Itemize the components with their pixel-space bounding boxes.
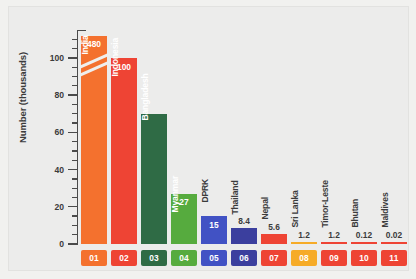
index-box-04[interactable]: 04 — [171, 250, 197, 266]
y-tick-minor — [72, 188, 79, 189]
bar-column: 100Indonesia — [111, 30, 137, 244]
plot-area: 480India100IndonesiaBangladesh27Myanmar1… — [79, 30, 409, 244]
bar-category-label: India — [81, 35, 90, 54]
y-tick-minor — [72, 160, 79, 161]
bar-category-label: Thailand — [231, 180, 240, 214]
y-tick-minor — [72, 234, 79, 235]
bar-sri-lanka[interactable] — [291, 242, 317, 245]
y-tick-minor — [72, 122, 79, 123]
bar-column: 1.2Timor-Leste — [321, 30, 347, 244]
bar-value-label: 15 — [201, 221, 227, 229]
y-tick-minor — [72, 197, 79, 198]
bar-nepal[interactable] — [261, 234, 287, 244]
y-tick-label: 20 — [24, 202, 64, 212]
index-box-10[interactable]: 10 — [351, 250, 377, 266]
index-box-02[interactable]: 02 — [111, 250, 137, 266]
y-tick-minor — [72, 178, 79, 179]
bar-category-label: Myanmar — [171, 176, 180, 213]
bar-value-label: 8.4 — [231, 217, 257, 225]
y-tick-minor — [72, 104, 79, 105]
bar-column: 0.02Maldives — [381, 30, 407, 244]
bar-category-label: Bhutan — [351, 199, 360, 228]
bar-category-label: Sri Lanka — [291, 190, 300, 227]
bar-value-label: 1.2 — [291, 231, 317, 239]
bar-category-label: Maldives — [381, 192, 390, 227]
bar-category-label: DPRK — [201, 178, 210, 202]
bar-column: 27Myanmar — [171, 30, 197, 244]
index-box-08[interactable]: 08 — [291, 250, 317, 266]
bar-bangladesh[interactable] — [141, 114, 167, 244]
y-tick-major — [68, 94, 78, 95]
y-tick-minor — [72, 215, 79, 216]
y-tick-minor — [72, 39, 79, 40]
bar-value-label: 0.12 — [351, 231, 377, 239]
y-tick-minor — [72, 67, 79, 68]
bar-category-label: Nepal — [261, 197, 270, 220]
y-tick-minor — [72, 48, 79, 49]
y-tick-label: 40 — [24, 165, 64, 175]
bar-value-label: 0.02 — [381, 231, 407, 239]
index-box-09[interactable]: 09 — [321, 250, 347, 266]
y-tick-minor — [72, 76, 79, 77]
index-box-01[interactable]: 01 — [81, 250, 107, 266]
bar-column: 1.2Sri Lanka — [291, 30, 317, 244]
bar-category-label: Timor-Leste — [321, 180, 330, 227]
index-label-row: 0102030405060708091011 — [79, 250, 409, 267]
y-tick-label: 80 — [24, 90, 64, 100]
bar-category-label: Bangladesh — [141, 74, 150, 121]
y-tick-minor — [72, 141, 79, 142]
y-tick-minor — [72, 150, 79, 151]
y-tick-label: 100 — [24, 53, 64, 63]
y-tick-major — [68, 132, 78, 133]
y-tick-minor — [72, 85, 79, 86]
y-tick-major — [68, 57, 78, 58]
bar-column: 8.4Thailand — [231, 30, 257, 244]
bar-column: 5.6Nepal — [261, 30, 287, 244]
bar-column: Bangladesh — [141, 30, 167, 244]
index-box-06[interactable]: 06 — [231, 250, 257, 266]
bar-value-label: 1.2 — [321, 231, 347, 239]
bar-column: 15DPRK — [201, 30, 227, 244]
bar-maldives[interactable] — [381, 242, 407, 245]
index-box-03[interactable]: 03 — [141, 250, 167, 266]
y-tick-label: 60 — [24, 127, 64, 137]
bar-thailand[interactable] — [231, 228, 257, 244]
y-tick-minor — [72, 225, 79, 226]
bar-category-label: Indonesia — [111, 38, 120, 77]
index-box-07[interactable]: 07 — [261, 250, 287, 266]
y-tick-major — [68, 169, 78, 170]
y-tick-major — [68, 206, 78, 207]
y-tick-minor — [72, 113, 79, 114]
bar-indonesia[interactable] — [111, 58, 137, 244]
bar-bhutan[interactable] — [351, 242, 377, 245]
bar-column: 480India — [81, 30, 107, 244]
y-tick-major — [68, 243, 78, 244]
bar-column: 0.12Bhutan — [351, 30, 377, 244]
bar-value-label: 5.6 — [261, 223, 287, 231]
chart-figure: Number (thousands) 020406080100 480India… — [0, 0, 416, 279]
index-box-05[interactable]: 05 — [201, 250, 227, 266]
bar-timor-leste[interactable] — [321, 242, 347, 245]
y-tick-label: 0 — [24, 239, 64, 249]
index-box-11[interactable]: 11 — [381, 250, 407, 266]
